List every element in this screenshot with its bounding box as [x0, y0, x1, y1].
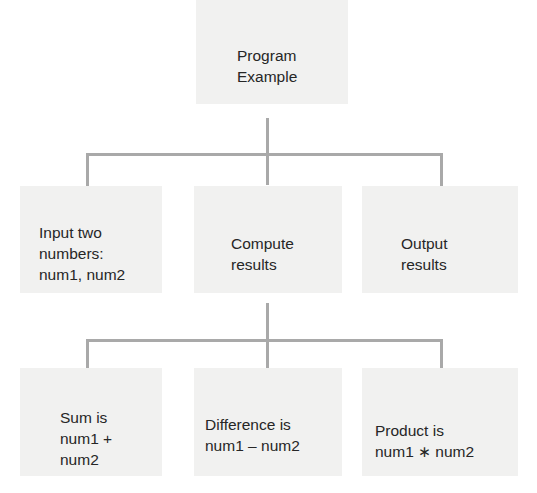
connector-level1-bar	[86, 153, 443, 156]
node-label: Output results	[401, 233, 448, 275]
node-compute-results: Compute results	[194, 186, 342, 293]
node-product: Product is num1 ∗ num2	[362, 368, 518, 476]
node-label: Program Example	[237, 45, 297, 87]
node-label: Sum is num1 + num2	[60, 407, 112, 470]
node-program-example: Program Example	[196, 0, 348, 104]
node-label: Difference is num1 – num2	[205, 414, 300, 456]
node-label: Input two numbers: num1, num2	[39, 222, 125, 285]
node-difference: Difference is num1 – num2	[194, 368, 342, 476]
connector-level2-bar	[86, 339, 443, 342]
node-input-numbers: Input two numbers: num1, num2	[20, 186, 162, 293]
node-output-results: Output results	[362, 186, 518, 293]
connector-root-trunk	[266, 118, 269, 185]
node-label: Product is num1 ∗ num2	[375, 420, 474, 462]
node-sum: Sum is num1 + num2	[20, 368, 162, 476]
node-label: Compute results	[231, 233, 294, 275]
